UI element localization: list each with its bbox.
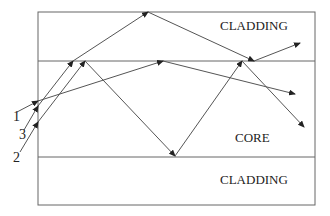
ray-label-3: 3 [19,127,26,142]
ray-1 [38,61,295,101]
bottom-cladding-label: CLADDING [220,172,288,187]
top-cladding-label: CLADDING [220,18,288,33]
ray-label-2: 2 [13,150,20,165]
core-label: CORE [235,130,270,145]
ray-label-1: 1 [13,109,20,124]
fiber-diagram: CLADDING CORE CLADDING 1 3 2 [0,0,330,216]
